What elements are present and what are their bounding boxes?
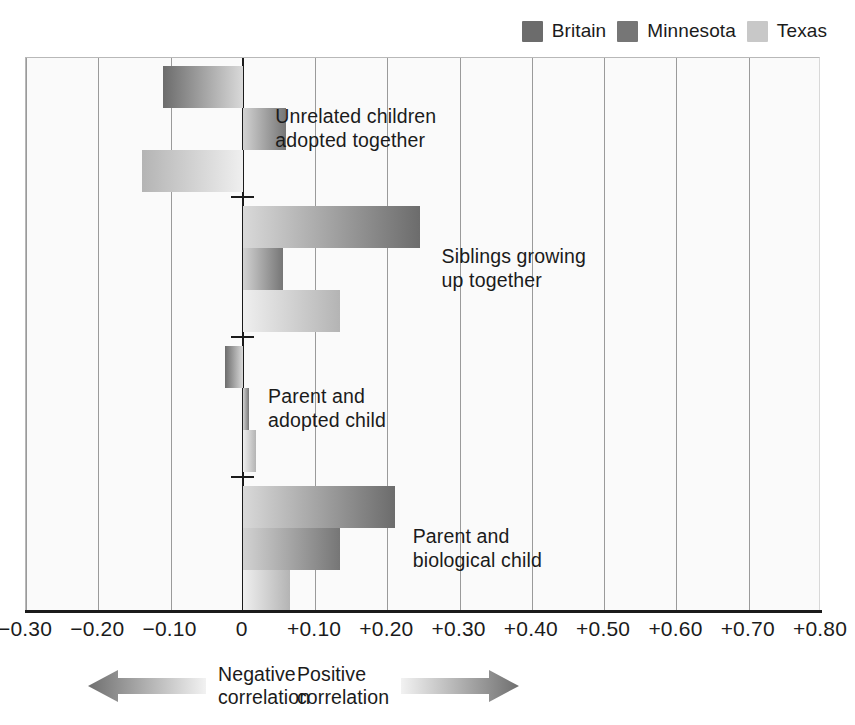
legend-item-minnesota: Minnesota [617, 20, 736, 42]
tick-label-7: +0.40 [504, 617, 558, 641]
correlation-direction-key: Negativecorrelation Positivecorrelation [0, 657, 855, 725]
tick-label-1: −0.20 [70, 617, 124, 641]
group-label-2: Parent and adopted child [268, 384, 386, 432]
bar-britain-group-0 [163, 66, 243, 108]
bar-minnesota-group-2 [243, 388, 249, 430]
group-label-0: Unrelated children adopted together [275, 104, 436, 152]
bar-britain-group-1 [243, 206, 420, 248]
group-label-1: Siblings growing up together [442, 244, 586, 292]
gridline [604, 58, 605, 610]
arrow-left-icon [88, 669, 206, 703]
tick-label-3: 0 [236, 617, 248, 641]
bar-britain-group-3 [243, 486, 395, 528]
chart-plot-area: Unrelated children adopted togetherSibli… [25, 57, 820, 610]
bar-texas-group-0 [142, 150, 243, 192]
positive-line2: correlation [297, 686, 389, 708]
bar-minnesota-group-3 [243, 528, 341, 570]
legend-label-britain: Britain [552, 20, 607, 42]
tick-label-10: +0.70 [721, 617, 775, 641]
legend-item-texas: Texas [747, 20, 827, 42]
group-tick-mark [231, 476, 254, 478]
legend-label-minnesota: Minnesota [647, 20, 736, 42]
gridline [26, 58, 27, 610]
legend-label-texas: Texas [777, 20, 827, 42]
tick-label-5: +0.20 [359, 617, 413, 641]
positive-correlation-key: Positivecorrelation [297, 663, 519, 709]
gridline [749, 58, 750, 610]
bar-texas-group-1 [243, 290, 341, 332]
positive-correlation-label: Positivecorrelation [297, 663, 389, 709]
bar-texas-group-3 [243, 570, 290, 610]
group-label-3: Parent and biological child [413, 524, 542, 572]
arrow-right-icon [401, 669, 519, 703]
negative-line1: Negative [218, 663, 296, 685]
group-tick-mark [231, 336, 254, 338]
positive-line1: Positive [297, 663, 366, 685]
tick-label-4: +0.10 [287, 617, 341, 641]
gridline [171, 58, 172, 610]
bar-minnesota-group-1 [243, 248, 283, 290]
negative-correlation-key: Negativecorrelation [88, 663, 310, 709]
gridline [98, 58, 99, 610]
group-tick-mark [231, 196, 254, 198]
tick-label-0: −0.30 [0, 617, 52, 641]
legend-swatch-icon [747, 21, 768, 42]
gridline [676, 58, 677, 610]
bar-texas-group-2 [243, 430, 256, 472]
tick-label-8: +0.50 [576, 617, 630, 641]
x-axis-line [25, 610, 822, 613]
legend-swatch-icon [617, 21, 638, 42]
tick-label-6: +0.30 [432, 617, 486, 641]
bar-britain-group-2 [225, 346, 243, 388]
tick-label-9: +0.60 [648, 617, 702, 641]
chart-legend: Britain Minnesota Texas [522, 18, 827, 44]
x-axis-tick-labels: −0.30−0.20−0.100+0.10+0.20+0.30+0.40+0.5… [0, 617, 855, 645]
legend-item-britain: Britain [522, 20, 607, 42]
tick-label-11: +0.80 [793, 617, 847, 641]
legend-swatch-icon [522, 21, 543, 42]
tick-label-2: −0.10 [142, 617, 196, 641]
